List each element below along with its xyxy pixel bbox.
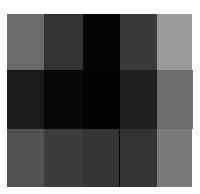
heatmap-cell (83, 129, 120, 187)
heatmap-cell (157, 129, 192, 187)
heatmap-cell (44, 129, 83, 187)
heatmap-cell (44, 70, 83, 129)
heatmap-cell (83, 70, 120, 129)
heatmap-cell (7, 14, 44, 70)
heatmap-cell (7, 70, 44, 129)
heatmap-cell (120, 70, 157, 129)
heatmap-cell (83, 14, 120, 70)
heatmap-cell (120, 129, 157, 187)
heatmap-cell (120, 14, 157, 70)
heatmap-cell (7, 129, 44, 187)
heatmap-cell (157, 70, 193, 129)
heatmap-cell (44, 14, 83, 70)
heatmap-cell (157, 14, 192, 70)
heatmap-canvas (0, 0, 200, 194)
cell-divider-line (119, 129, 120, 187)
